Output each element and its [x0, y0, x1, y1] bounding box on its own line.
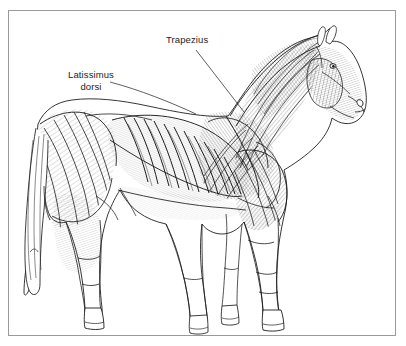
fore-hoof-near	[262, 310, 284, 331]
label-latissimus-line1: Latissimus	[68, 69, 114, 80]
trapezius-leader-line	[196, 50, 244, 112]
label-latissimus-dorsi: Latissimus dorsi	[58, 69, 124, 93]
hind-hoof-far	[189, 315, 208, 334]
illustration-page: Trapezius Latissimus dorsi	[0, 0, 406, 346]
label-trapezius: Trapezius	[166, 34, 208, 46]
label-trapezius-text: Trapezius	[166, 34, 208, 45]
fore-hoof-far	[221, 305, 239, 325]
label-latissimus-line2: dorsi	[58, 81, 124, 93]
horse-anatomy-drawing	[0, 0, 406, 346]
hind-hoof-near	[84, 308, 104, 330]
